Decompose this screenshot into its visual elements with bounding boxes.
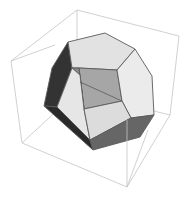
polyhedron xyxy=(44,33,154,150)
polyhedron-graphic xyxy=(0,0,191,201)
polyhedron-figure: Polyhedron in bounding box xyxy=(0,0,191,201)
